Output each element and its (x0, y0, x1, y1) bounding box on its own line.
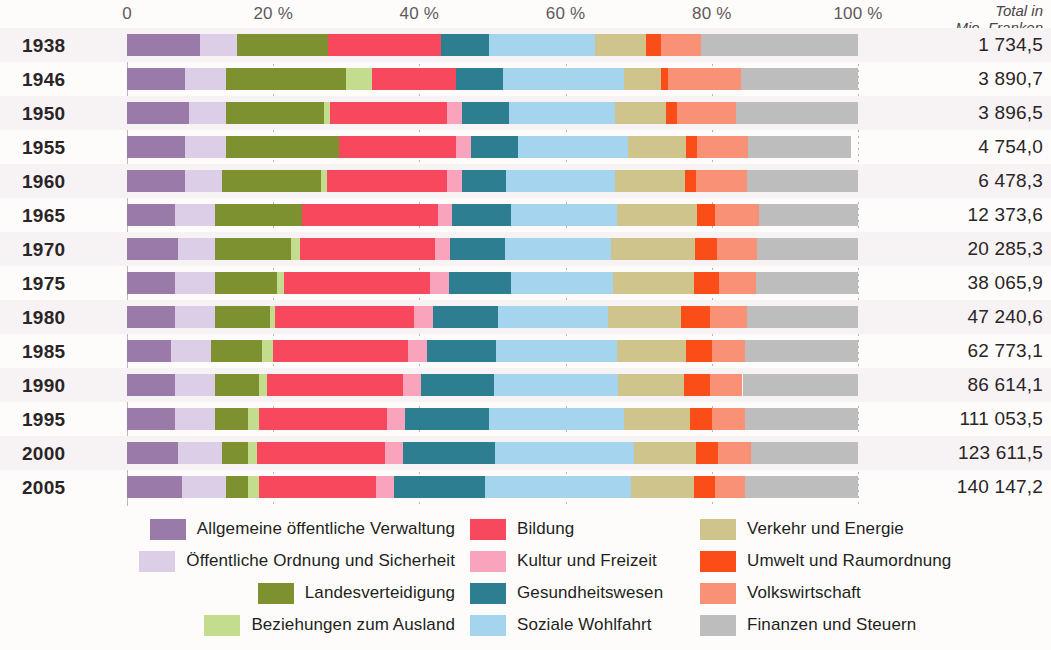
bar-segment[interactable] (267, 374, 402, 396)
bar-segment[interactable] (668, 68, 741, 90)
bar-segment[interactable] (646, 34, 661, 56)
bar-segment[interactable] (666, 102, 677, 124)
bar-segment[interactable] (237, 34, 328, 56)
bar-segment[interactable] (175, 204, 215, 226)
bar-segment[interactable] (403, 374, 421, 396)
bar-segment[interactable] (387, 408, 405, 430)
bar-segment[interactable] (628, 136, 686, 158)
bar-segment[interactable] (259, 374, 268, 396)
bar-segment[interactable] (684, 374, 710, 396)
bar-segment[interactable] (200, 34, 237, 56)
bar-segment[interactable] (277, 272, 284, 294)
bar-segment[interactable] (710, 374, 743, 396)
bar-segment[interactable] (185, 136, 225, 158)
bar-segment[interactable] (471, 136, 519, 158)
bar-segment[interactable] (506, 170, 616, 192)
bar-segment[interactable] (462, 102, 510, 124)
bar-segment[interactable] (211, 340, 262, 362)
bar-segment[interactable] (494, 374, 618, 396)
bar-segment[interactable] (741, 68, 858, 90)
bar-segment[interactable] (661, 68, 668, 90)
bar-segment[interactable] (433, 306, 499, 328)
bar-segment[interactable] (339, 136, 456, 158)
bar-segment[interactable] (696, 442, 718, 464)
stacked-bar[interactable] (127, 374, 858, 396)
stacked-bar[interactable] (127, 272, 858, 294)
bar-segment[interactable] (747, 306, 858, 328)
bar-segment[interactable] (748, 136, 850, 158)
bar-segment[interactable] (175, 408, 215, 430)
bar-segment[interactable] (686, 340, 712, 362)
bar-segment[interactable] (745, 476, 858, 498)
legend-item[interactable]: Kultur und Freizeit (470, 548, 657, 574)
bar-segment[interactable] (127, 204, 175, 226)
bar-segment[interactable] (300, 238, 435, 260)
stacked-bar[interactable] (127, 238, 858, 260)
bar-segment[interactable] (127, 306, 175, 328)
bar-segment[interactable] (449, 272, 511, 294)
bar-segment[interactable] (226, 68, 347, 90)
stacked-bar[interactable] (127, 340, 858, 362)
bar-segment[interactable] (275, 306, 414, 328)
bar-segment[interactable] (385, 442, 403, 464)
bar-segment[interactable] (185, 68, 225, 90)
bar-segment[interactable] (127, 374, 175, 396)
bar-segment[interactable] (346, 68, 372, 90)
bar-segment[interactable] (495, 442, 634, 464)
bar-segment[interactable] (450, 238, 505, 260)
bar-segment[interactable] (496, 340, 617, 362)
bar-segment[interactable] (511, 272, 613, 294)
bar-segment[interactable] (330, 102, 447, 124)
legend-item[interactable]: Soziale Wohlfahrt (470, 612, 652, 638)
bar-segment[interactable] (701, 34, 858, 56)
bar-segment[interactable] (178, 238, 215, 260)
bar-segment[interactable] (756, 272, 858, 294)
bar-segment[interactable] (661, 34, 701, 56)
bar-segment[interactable] (421, 374, 494, 396)
bar-segment[interactable] (327, 170, 448, 192)
bar-segment[interactable] (127, 442, 178, 464)
bar-segment[interactable] (171, 340, 211, 362)
bar-segment[interactable] (615, 102, 666, 124)
bar-segment[interactable] (189, 102, 226, 124)
bar-segment[interactable] (248, 476, 259, 498)
stacked-bar[interactable] (127, 68, 858, 90)
bar-segment[interactable] (215, 408, 248, 430)
bar-segment[interactable] (489, 34, 595, 56)
bar-segment[interactable] (745, 408, 858, 430)
bar-segment[interactable] (718, 442, 751, 464)
legend-item[interactable]: Beziehungen zum Ausland (204, 612, 455, 638)
bar-segment[interactable] (685, 170, 696, 192)
bar-segment[interactable] (215, 306, 270, 328)
bar-segment[interactable] (615, 170, 684, 192)
bar-segment[interactable] (273, 340, 408, 362)
bar-segment[interactable] (215, 204, 303, 226)
bar-segment[interactable] (226, 102, 325, 124)
bar-segment[interactable] (127, 68, 185, 90)
bar-segment[interactable] (745, 340, 858, 362)
bar-segment[interactable] (505, 238, 611, 260)
bar-segment[interactable] (489, 408, 624, 430)
bar-segment[interactable] (498, 306, 608, 328)
bar-segment[interactable] (694, 476, 716, 498)
bar-segment[interactable] (743, 374, 858, 396)
bar-segment[interactable] (403, 442, 494, 464)
bar-segment[interactable] (127, 340, 171, 362)
bar-segment[interactable] (328, 34, 441, 56)
bar-segment[interactable] (677, 102, 735, 124)
bar-segment[interactable] (127, 476, 182, 498)
bar-segment[interactable] (618, 374, 684, 396)
bar-segment[interactable] (302, 204, 437, 226)
bar-segment[interactable] (259, 408, 387, 430)
bar-segment[interactable] (757, 238, 858, 260)
legend-item[interactable]: Verkehr und Energie (700, 516, 904, 542)
bar-segment[interactable] (695, 238, 717, 260)
bar-segment[interactable] (456, 136, 471, 158)
bar-segment[interactable] (697, 136, 748, 158)
stacked-bar[interactable] (127, 408, 858, 430)
bar-segment[interactable] (456, 68, 504, 90)
bar-segment[interactable] (175, 374, 215, 396)
bar-segment[interactable] (248, 408, 259, 430)
legend-item[interactable]: Volkswirtschaft (700, 580, 861, 606)
stacked-bar[interactable] (127, 204, 858, 226)
